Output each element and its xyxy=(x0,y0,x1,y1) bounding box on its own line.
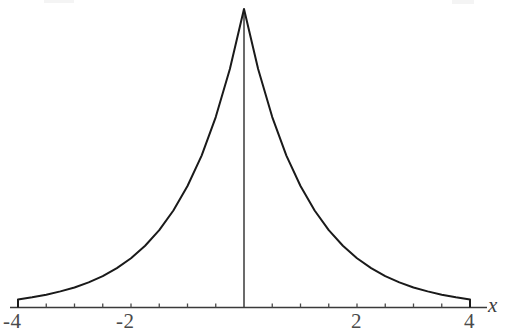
plot-canvas xyxy=(0,0,505,335)
chart-figure: -4 -2 2 4 x xyxy=(0,0,505,335)
x-axis-label: x xyxy=(488,295,497,316)
x-tick-label-pos4: 4 xyxy=(464,311,475,332)
x-tick-label-neg4: -4 xyxy=(3,311,22,332)
x-tick-label-pos2: 2 xyxy=(351,311,362,332)
x-tick-label-neg2: -2 xyxy=(116,311,135,332)
